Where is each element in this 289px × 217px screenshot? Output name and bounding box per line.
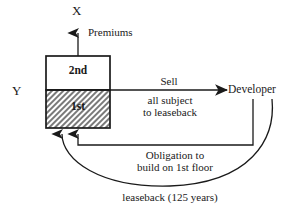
second-floor-label: 2nd <box>46 64 110 76</box>
y-label: Y <box>12 84 21 98</box>
sell-detail-line-2: to leaseback <box>124 107 216 119</box>
sell-detail-label: all subject to leaseback <box>124 95 216 119</box>
obligation-label: Obligation to build on 1st floor <box>110 150 240 174</box>
diagram-canvas: X Y Premiums 2nd 1st Sell all subject to… <box>0 0 289 217</box>
x-label: X <box>72 4 81 18</box>
developer-label: Developer <box>228 83 276 95</box>
premiums-label: Premiums <box>88 27 133 39</box>
first-floor-label: 1st <box>46 100 110 112</box>
obligation-line-2: build on 1st floor <box>110 162 240 174</box>
leaseback-label: leaseback (125 years) <box>100 192 240 204</box>
sell-label: Sell <box>130 76 208 88</box>
